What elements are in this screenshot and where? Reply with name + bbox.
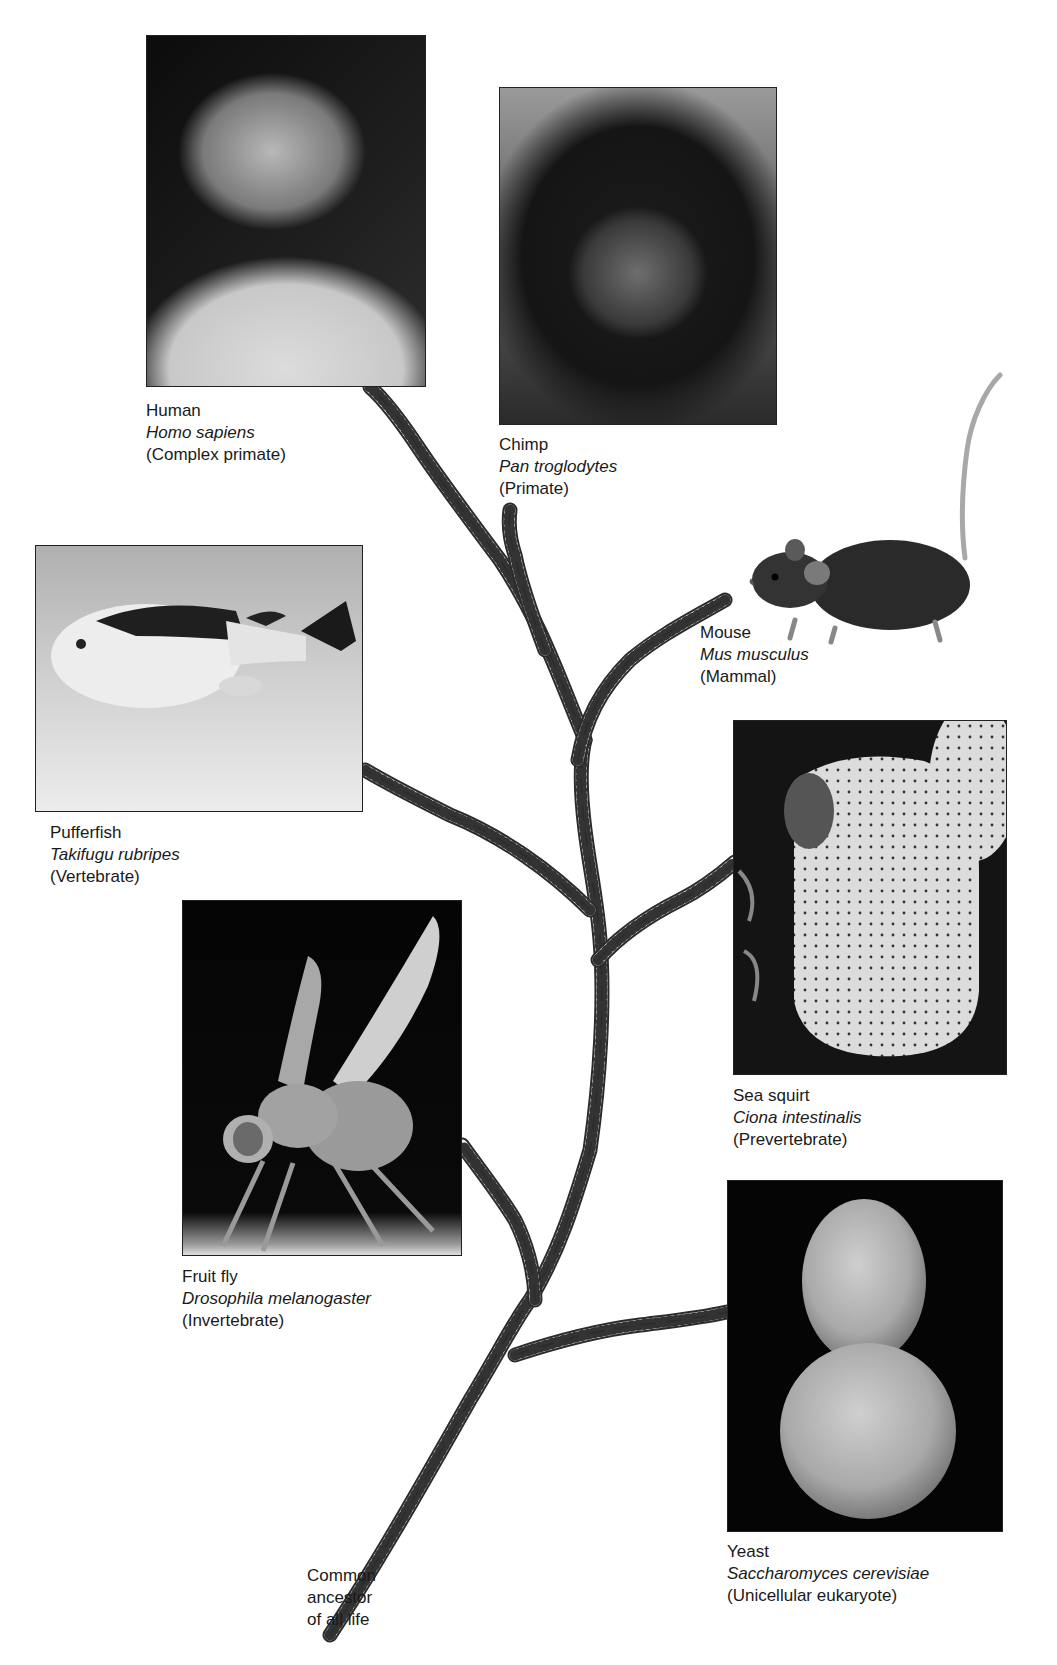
scientific-name: Homo sapiens — [146, 422, 286, 444]
fruit-fly-shape — [183, 901, 462, 1256]
common-name: Chimp — [499, 434, 617, 456]
label-sea-squirt: Sea squirt Ciona intestinalis (Preverteb… — [733, 1085, 862, 1151]
pufferfish-photo — [35, 545, 363, 812]
dna-branch-fruitfly — [462, 1145, 535, 1300]
scientific-name: Drosophila melanogaster — [182, 1288, 371, 1310]
classification: (Prevertebrate) — [733, 1129, 862, 1151]
dna-branch-pufferfish — [365, 770, 590, 910]
classification: (Mammal) — [700, 666, 809, 688]
sea-squirt-photo — [733, 720, 1007, 1075]
root-line: Common — [307, 1565, 376, 1587]
scientific-name: Ciona intestinalis — [733, 1107, 862, 1129]
label-mouse: Mouse Mus musculus (Mammal) — [700, 622, 809, 688]
scientific-name: Pan troglodytes — [499, 456, 617, 478]
root-line: of all life — [307, 1609, 376, 1631]
scientific-name: Saccharomyces cerevisiae — [727, 1563, 929, 1585]
fruit-fly-photo — [182, 900, 462, 1256]
common-name: Fruit fly — [182, 1266, 371, 1288]
scientific-name: Takifugu rubripes — [50, 844, 180, 866]
mouse-image — [735, 370, 1005, 655]
label-yeast: Yeast Saccharomyces cerevisiae (Unicellu… — [727, 1541, 929, 1607]
scientific-name: Mus musculus — [700, 644, 809, 666]
classification: (Invertebrate) — [182, 1310, 371, 1332]
common-name: Human — [146, 400, 286, 422]
sea-squirt-shape — [734, 721, 1007, 1075]
pufferfish-shape — [36, 546, 363, 812]
dna-branch-seasquirt — [598, 862, 735, 960]
common-name: Sea squirt — [733, 1085, 862, 1107]
label-common-ancestor: Common ancestor of all life — [307, 1565, 376, 1631]
root-line: ancestor — [307, 1587, 376, 1609]
yeast-photo — [727, 1180, 1003, 1532]
classification: (Primate) — [499, 478, 617, 500]
dna-branch-chimp — [509, 510, 545, 650]
classification: (Vertebrate) — [50, 866, 180, 888]
label-human: Human Homo sapiens (Complex primate) — [146, 400, 286, 466]
classification: (Complex primate) — [146, 444, 286, 466]
yeast-shape — [728, 1181, 1003, 1532]
common-name: Mouse — [700, 622, 809, 644]
classification: (Unicellular eukaryote) — [727, 1585, 929, 1607]
label-pufferfish: Pufferfish Takifugu rubripes (Vertebrate… — [50, 822, 180, 888]
common-name: Yeast — [727, 1541, 929, 1563]
label-fruit-fly: Fruit fly Drosophila melanogaster (Inver… — [182, 1266, 371, 1332]
human-photo — [146, 35, 426, 387]
label-chimp: Chimp Pan troglodytes (Primate) — [499, 434, 617, 500]
dna-branch-yeast — [515, 1312, 727, 1355]
common-name: Pufferfish — [50, 822, 180, 844]
